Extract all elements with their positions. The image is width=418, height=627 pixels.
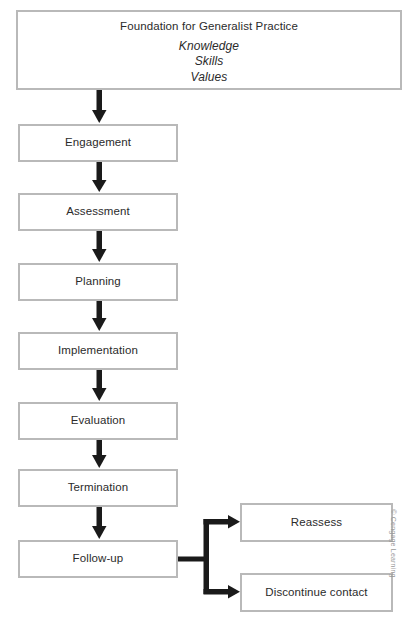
step-box-assessment: Assessment [18, 193, 178, 231]
arrow-down-foundation-to-engagement [92, 90, 107, 123]
arrow-down-planning-to-implementation [92, 301, 107, 331]
step-label: Engagement [65, 135, 131, 151]
arrow-down-termination-to-follow-up [92, 507, 107, 539]
step-box-implementation: Implementation [18, 332, 178, 370]
arrow-down-implementation-to-evaluation [92, 370, 107, 401]
step-box-planning: Planning [18, 263, 178, 301]
branch-label: Reassess [291, 515, 342, 531]
step-box-evaluation: Evaluation [18, 402, 178, 440]
step-label: Termination [68, 480, 129, 496]
arrow-down-engagement-to-assessment [92, 162, 107, 192]
step-box-engagement: Engagement [18, 124, 178, 162]
arrow-right-to-discontinue-contact [204, 585, 241, 599]
foundation-box: Foundation for Generalist Practice Knowl… [16, 10, 402, 90]
foundation-item-skills: Skills [195, 54, 224, 70]
step-label: Implementation [58, 343, 138, 359]
arrow-down-evaluation-to-termination [92, 440, 107, 468]
step-box-termination: Termination [18, 469, 178, 507]
step-label: Follow-up [73, 551, 124, 567]
branch-box-reassess: Reassess [240, 503, 393, 542]
copyright-credit: © Cengage Learning [390, 496, 397, 592]
step-box-follow-up: Follow-up [18, 540, 178, 578]
step-label: Planning [75, 274, 121, 290]
step-label: Assessment [66, 204, 130, 220]
arrow-down-assessment-to-planning [92, 231, 107, 262]
step-label: Evaluation [71, 413, 126, 429]
foundation-item-knowledge: Knowledge [179, 39, 239, 55]
flowchart-diagram: Foundation for Generalist Practice Knowl… [0, 0, 418, 627]
arrow-right-to-reassess [204, 515, 241, 529]
branch-label: Discontinue contact [265, 585, 367, 601]
arrow-branch-from-follow-up [178, 519, 209, 594]
foundation-title: Foundation for Generalist Practice [120, 19, 298, 35]
foundation-item-values: Values [191, 70, 228, 86]
branch-box-discontinue-contact: Discontinue contact [240, 573, 393, 612]
